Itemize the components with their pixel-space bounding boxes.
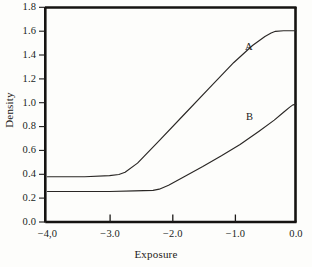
x-tick-label--1.0: −1.0 (215, 228, 255, 239)
x-tick-label-0.0: 0.0 (276, 228, 312, 239)
y-tick-label-0.0: 0.0 (10, 216, 36, 227)
chart-figure: 1.8 1.6 1.4 1.2 1.0 0.8 0.6 0.4 0.2 0.0 … (0, 0, 312, 267)
x-tick-label--3.0: −3.0 (90, 228, 130, 239)
y-tick-label-0.4: 0.4 (10, 168, 36, 179)
curve-a-label: A (245, 41, 253, 52)
y-tick-label-0.6: 0.6 (10, 144, 36, 155)
y-tick-label-1.6: 1.6 (10, 25, 36, 36)
y-tick-label-0.2: 0.2 (10, 192, 36, 203)
x-axis-title: Exposure (0, 248, 312, 260)
chart-background (0, 0, 312, 267)
x-tick-label--2.0: −2.0 (153, 228, 193, 239)
y-tick-label-1.4: 1.4 (10, 49, 36, 60)
y-tick-label-1.8: 1.8 (10, 1, 36, 12)
chart-plot-area (0, 0, 312, 267)
curve-b-label: B (246, 111, 253, 122)
x-tick-label--4.0: −4,0 (27, 228, 67, 239)
y-axis-title: Density (3, 75, 15, 145)
